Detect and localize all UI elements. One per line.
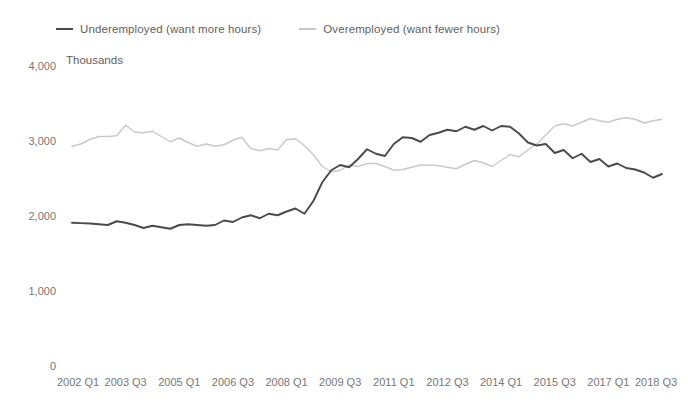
plot-area bbox=[0, 0, 688, 406]
series-line-underemployed bbox=[72, 126, 662, 229]
x-axis-tick-label: 2014 Q1 bbox=[480, 376, 522, 388]
x-axis-tick-label: 2009 Q3 bbox=[319, 376, 361, 388]
x-axis: 2002 Q12003 Q32005 Q12006 Q32008 Q12009 … bbox=[0, 376, 688, 392]
x-axis-tick-label: 2002 Q1 bbox=[57, 376, 99, 388]
x-axis-tick-label: 2008 Q1 bbox=[265, 376, 307, 388]
line-chart: Underemployed (want more hours) Overempl… bbox=[0, 0, 688, 406]
x-axis-tick-label: 2012 Q3 bbox=[426, 376, 468, 388]
x-axis-tick-label: 2015 Q3 bbox=[534, 376, 576, 388]
series-canvas bbox=[0, 0, 688, 406]
x-axis-tick-label: 2006 Q3 bbox=[212, 376, 254, 388]
series-line-overemployed bbox=[72, 118, 662, 172]
x-axis-tick-label: 2017 Q1 bbox=[587, 376, 629, 388]
x-axis-tick-label: 2018 Q3 bbox=[635, 376, 677, 388]
x-axis-tick-label: 2003 Q3 bbox=[105, 376, 147, 388]
x-axis-tick-label: 2011 Q1 bbox=[373, 376, 414, 388]
x-axis-tick-label: 2005 Q1 bbox=[158, 376, 200, 388]
